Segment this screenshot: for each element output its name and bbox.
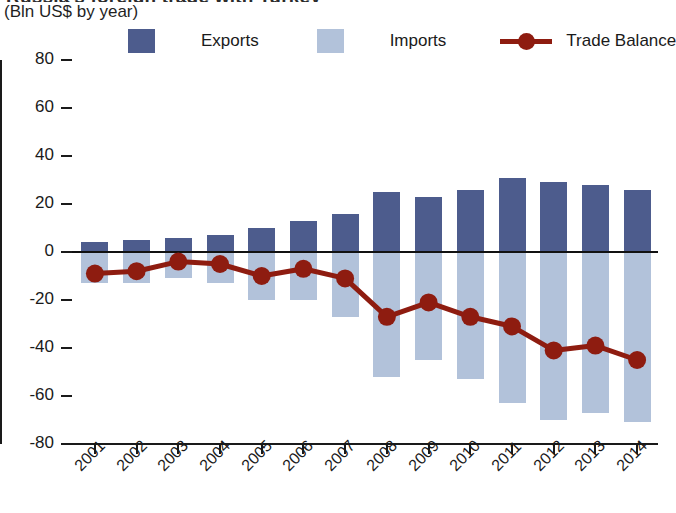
bar-imports [165, 252, 192, 278]
zero-baseline [72, 251, 658, 253]
bar-imports [332, 252, 359, 317]
bar-imports [415, 252, 442, 360]
legend-swatch-imports-icon [317, 29, 344, 53]
legend-item-imports: Imports [317, 29, 447, 53]
bar-exports [165, 238, 192, 252]
bar-imports [123, 252, 150, 283]
bar-exports [373, 192, 400, 252]
bar-imports [81, 252, 108, 283]
bar-exports [624, 190, 651, 252]
y-axis-tick-label: 20 [2, 194, 54, 211]
legend-item-trade-balance: Trade Balance [500, 29, 676, 53]
y-axis-tick-label: 80 [2, 50, 54, 67]
y-axis-tick [61, 395, 72, 397]
y-axis-labels: 806040200-20-40-60-80 [0, 0, 66, 513]
y-axis-tick [61, 299, 72, 301]
bar-imports [499, 252, 526, 403]
y-axis-tick [61, 155, 72, 157]
bar-exports [332, 214, 359, 252]
y-axis-tick-label: -80 [2, 434, 54, 451]
bar-exports [415, 197, 442, 252]
bar-exports [499, 178, 526, 252]
bar-exports [290, 221, 317, 252]
legend-label-exports: Exports [201, 31, 259, 51]
bar-exports [207, 235, 234, 252]
legend-line-dot-icon [500, 29, 552, 53]
bar-exports [582, 185, 609, 252]
y-axis-tick [61, 203, 72, 205]
bar-imports [540, 252, 567, 420]
y-axis-tick-label: 40 [2, 146, 54, 163]
legend-swatch-exports-icon [128, 29, 155, 53]
legend-label-trade-balance: Trade Balance [566, 31, 676, 51]
y-axis-tick [61, 251, 72, 253]
bar-exports [248, 228, 275, 252]
bar-imports [582, 252, 609, 413]
y-axis-line [0, 60, 2, 444]
y-axis-tick-label: -40 [2, 338, 54, 355]
bar-exports [457, 190, 484, 252]
y-axis-tick-label: -60 [2, 386, 54, 403]
bar-imports [207, 252, 234, 283]
y-axis-tick-label: -20 [2, 290, 54, 307]
bar-imports [373, 252, 400, 377]
bar-imports [457, 252, 484, 379]
chart-legend: Exports Imports Trade Balance [128, 28, 676, 54]
bar-imports [290, 252, 317, 300]
bar-exports [540, 182, 567, 252]
y-axis-tick-label: 60 [2, 98, 54, 115]
y-axis-tick [61, 443, 72, 445]
y-axis-tick [61, 59, 72, 61]
x-axis-line [72, 443, 658, 445]
y-axis-tick [61, 107, 72, 109]
legend-item-exports: Exports [128, 29, 259, 53]
bar-imports [624, 252, 651, 422]
y-axis-tick-label: 0 [2, 242, 54, 259]
bar-imports [248, 252, 275, 300]
legend-label-imports: Imports [390, 31, 447, 51]
y-axis-tick [61, 347, 72, 349]
